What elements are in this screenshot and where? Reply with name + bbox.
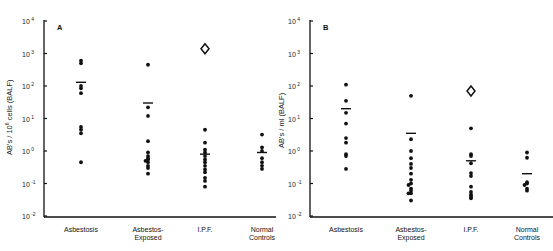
data-point xyxy=(146,151,150,155)
data-point xyxy=(344,111,348,115)
category-label: I.P.F. xyxy=(197,226,212,233)
y-tick-label: 10 0 xyxy=(288,146,300,155)
data-point xyxy=(79,160,83,164)
data-point xyxy=(344,136,348,140)
y-ticks-b: 10 410 310 210 110 010 -110 -2 xyxy=(288,16,313,220)
data-point xyxy=(203,164,207,168)
data-point xyxy=(203,141,207,145)
panel-letter-a: A xyxy=(57,23,63,32)
category-label: Normal xyxy=(516,226,539,233)
y-ticks-a: 10 410 310 210 110 010 -110 -2 xyxy=(22,16,47,220)
data-point xyxy=(409,199,413,203)
data-point xyxy=(203,179,207,183)
y-tick-label: 10 -1 xyxy=(288,179,302,188)
y-tick-label: 10 3 xyxy=(288,49,300,58)
data-points-a xyxy=(76,44,267,189)
y-tick-label: 10 0 xyxy=(22,146,34,155)
panel-a: 10 410 310 210 110 010 -110 -2 A AB's / … xyxy=(0,0,276,251)
data-point xyxy=(409,149,413,153)
data-point xyxy=(469,161,473,165)
data-point xyxy=(407,191,411,195)
category-label: Normal xyxy=(251,226,274,233)
data-point xyxy=(409,166,413,170)
y-tick-label: 10 4 xyxy=(288,16,300,25)
data-point xyxy=(469,174,473,178)
data-point xyxy=(146,105,150,109)
y-tick-label: 10 1 xyxy=(288,114,300,123)
data-point xyxy=(469,154,473,158)
y-tick-label: 10 -2 xyxy=(288,211,302,220)
data-point xyxy=(344,154,348,158)
data-point xyxy=(146,172,150,176)
data-point xyxy=(260,156,264,160)
data-point xyxy=(407,183,411,187)
category-label: Asbestos- xyxy=(395,226,427,233)
y-tick-label: 10 2 xyxy=(288,81,300,90)
y-axis-label-b: AB's / ml (BALF) xyxy=(277,92,286,148)
panel-letter-b: B xyxy=(323,23,329,32)
data-point xyxy=(409,162,413,166)
y-tick-label: 10 -1 xyxy=(22,179,36,188)
data-point xyxy=(203,160,207,164)
data-point xyxy=(409,172,413,176)
outlier-diamond-marker xyxy=(201,44,209,54)
chart-a: 10 410 310 210 110 010 -110 -2 A AB's / … xyxy=(0,0,276,251)
data-point xyxy=(525,151,529,155)
data-point xyxy=(409,94,413,98)
category-label: Asbestos- xyxy=(132,226,164,233)
category-label-line2: Exposed xyxy=(134,234,161,242)
data-point xyxy=(146,63,150,67)
data-point xyxy=(146,139,150,143)
y-axis-label-a: AB's / 106 cells (BALF) xyxy=(4,79,14,155)
data-point xyxy=(409,156,413,160)
y-tick-label: 10 -2 xyxy=(22,211,36,220)
data-point xyxy=(344,99,348,103)
x-categories-a: AsbestosisAsbestos-ExposedI.P.F.NormalCo… xyxy=(64,226,275,242)
data-point xyxy=(260,145,264,149)
data-point xyxy=(344,122,348,126)
outlier-diamond-marker xyxy=(467,86,475,96)
data-point xyxy=(79,91,83,95)
data-point xyxy=(409,137,413,141)
category-label-line2: Controls xyxy=(249,234,276,241)
y-tick-label: 10 1 xyxy=(22,114,34,123)
data-point xyxy=(146,114,150,118)
x-categories-b: AsbestosisAsbestos-ExposedI.P.F.NormalCo… xyxy=(329,226,540,242)
y-tick-label: 10 3 xyxy=(22,49,34,58)
data-point xyxy=(203,128,207,132)
data-point xyxy=(203,185,207,189)
data-point xyxy=(260,133,264,137)
data-point xyxy=(79,131,83,135)
data-point xyxy=(79,61,83,65)
y-tick-label: 10 4 xyxy=(22,16,34,25)
data-point xyxy=(344,167,348,171)
data-point xyxy=(146,166,150,170)
data-point xyxy=(525,156,529,160)
category-label-line2: Exposed xyxy=(397,234,424,242)
data-point xyxy=(260,160,264,164)
data-point xyxy=(469,185,473,189)
category-label: I.P.F. xyxy=(463,226,478,233)
data-point xyxy=(260,167,264,171)
y-tick-label: 10 2 xyxy=(22,81,34,90)
data-point xyxy=(344,141,348,145)
data-point xyxy=(523,183,527,187)
data-point xyxy=(79,86,83,90)
chart-b: 10 410 310 210 110 010 -110 -2 B AB's / … xyxy=(276,0,553,251)
category-label-line2: Controls xyxy=(514,234,541,241)
data-points-b xyxy=(341,83,532,203)
category-label: Asbestosis xyxy=(329,226,363,233)
data-point xyxy=(146,160,150,164)
panel-b: 10 410 310 210 110 010 -110 -2 B AB's / … xyxy=(276,0,553,251)
category-label: Asbestosis xyxy=(64,226,98,233)
data-point xyxy=(525,189,529,193)
data-point xyxy=(409,178,413,182)
data-point xyxy=(469,196,473,200)
data-point xyxy=(79,128,83,132)
data-point xyxy=(203,170,207,174)
data-point xyxy=(469,126,473,130)
data-point xyxy=(344,83,348,87)
